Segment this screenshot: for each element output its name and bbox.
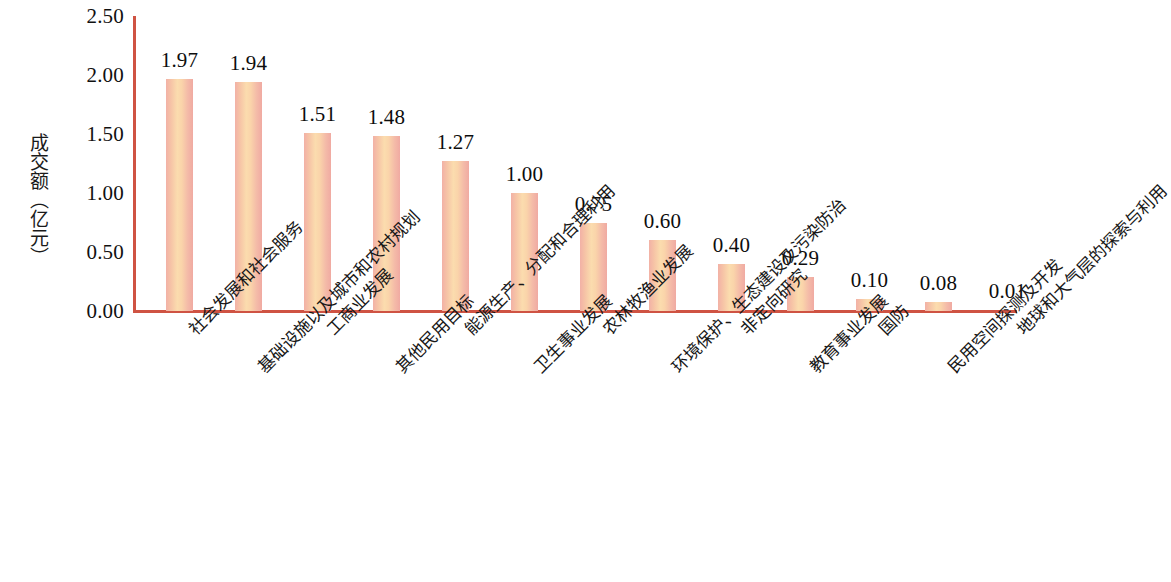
x-axis-category-label: 农林牧渔业发展 bbox=[596, 238, 698, 340]
x-axis-category-label: 其他民用目标 bbox=[389, 288, 479, 378]
x-axis-category-label: 卫生事业发展 bbox=[527, 288, 617, 378]
x-axis-category-label: 教育事业发展 bbox=[803, 288, 893, 378]
